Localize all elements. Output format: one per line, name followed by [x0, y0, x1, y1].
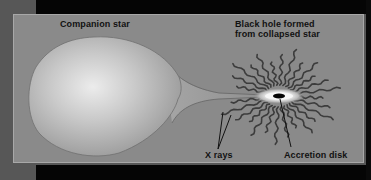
accretion-disk-pointer — [280, 99, 291, 147]
x-rays-label: X rays — [205, 150, 233, 160]
x-ray-line — [275, 107, 279, 144]
frame-right-band — [366, 0, 371, 180]
companion-star-label: Companion star — [60, 19, 130, 29]
x-ray-line — [257, 55, 274, 86]
black-hole — [273, 94, 285, 99]
x-ray-line — [265, 107, 275, 133]
x-ray-line — [250, 104, 270, 121]
companion-star — [29, 37, 181, 156]
accretion-disk-label: Accretion disk — [284, 150, 347, 160]
frame-top-band — [36, 0, 371, 14]
x-ray-line — [289, 103, 315, 121]
black-hole-label: Black hole formed from collapsed star — [235, 19, 320, 39]
black-hole-label-line1: Black hole formed — [235, 19, 320, 29]
frame-bottom-band — [36, 165, 371, 180]
diagram-panel: Companion star Black hole formed from co… — [13, 14, 364, 163]
x-ray-line — [279, 55, 283, 85]
black-hole-label-line2: from collapsed star — [235, 29, 320, 39]
